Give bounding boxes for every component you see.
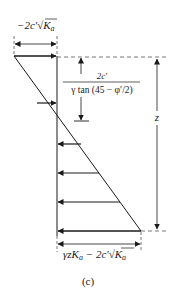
tension-width-label: −2c′√Ka [17,19,55,33]
active-pressure-diagram: −2c′√Ka 2c′ γ tan (45 − φ′/2) z γzKa − 2… [0,0,175,304]
depth-label: z [154,111,160,123]
figure-caption: (c) [82,275,95,288]
fraction-denominator: γ tan (45 − φ′/2) [70,85,132,96]
fraction-numerator: 2c′ [97,71,108,81]
base-pressure-label: γzKa − 2c′√Ka [63,248,126,262]
